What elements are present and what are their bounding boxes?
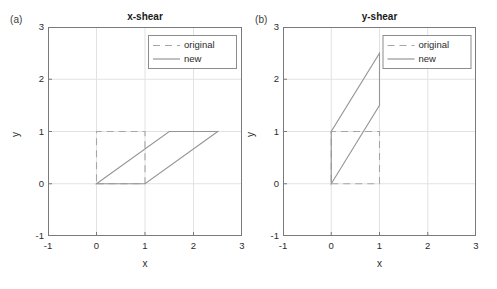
ytick-label-b-3: 2 bbox=[257, 73, 279, 84]
xtick-label-a-3: 2 bbox=[182, 240, 206, 251]
tick-marks-a bbox=[48, 79, 194, 236]
ytick-label-b-1: 0 bbox=[257, 178, 279, 189]
axis-label-x-a: x bbox=[48, 258, 242, 269]
panel-y-shear: (b) y-shear bbox=[248, 0, 497, 289]
legend-label-original-b: original bbox=[419, 39, 450, 50]
tick-marks-b bbox=[283, 79, 428, 236]
xtick-label-b-1: 0 bbox=[319, 240, 343, 251]
ytick-label-b-2: 1 bbox=[257, 126, 279, 137]
ytick-label-a-3: 2 bbox=[22, 73, 44, 84]
ytick-label-a-2: 1 bbox=[22, 126, 44, 137]
axis-label-x-b: x bbox=[283, 258, 476, 269]
shape-new-b bbox=[331, 53, 379, 184]
figure-canvas: (a) x-shear bbox=[0, 0, 497, 289]
ytick-label-a-1: 0 bbox=[22, 178, 44, 189]
ytick-label-b-4: 3 bbox=[257, 21, 279, 32]
shape-original-b bbox=[331, 132, 379, 184]
legend-label-original-a: original bbox=[184, 39, 215, 50]
legend-label-new-b: new bbox=[419, 53, 436, 64]
ytick-label-b-0: -1 bbox=[257, 230, 279, 241]
xtick-label-a-2: 1 bbox=[133, 240, 157, 251]
xtick-label-b-0: -1 bbox=[271, 240, 295, 251]
shape-new-a bbox=[97, 132, 218, 184]
xtick-label-b-4: 3 bbox=[464, 240, 488, 251]
xtick-label-a-0: -1 bbox=[36, 240, 60, 251]
panel-x-shear: (a) x-shear bbox=[0, 0, 249, 289]
ytick-label-a-4: 3 bbox=[22, 21, 44, 32]
axis-label-y-a: y bbox=[10, 132, 21, 137]
axis-label-y-b: y bbox=[245, 132, 256, 137]
xtick-label-b-2: 1 bbox=[368, 240, 392, 251]
xtick-label-b-3: 2 bbox=[416, 240, 440, 251]
shape-original-a bbox=[97, 132, 146, 184]
xtick-label-a-1: 0 bbox=[85, 240, 109, 251]
legend-label-new-a: new bbox=[184, 53, 201, 64]
ytick-label-a-0: -1 bbox=[22, 230, 44, 241]
